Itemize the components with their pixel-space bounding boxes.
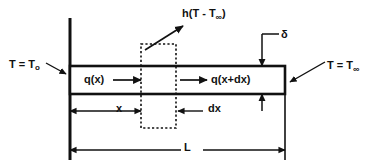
base-temperature-label: T = To bbox=[9, 59, 40, 70]
diagram-canvas bbox=[0, 0, 383, 166]
heat-flux-in-label: q(x) bbox=[84, 74, 104, 85]
convection-label-prefix: h(T - T bbox=[182, 7, 216, 19]
infinity-subscript-icon: ∞ bbox=[216, 12, 222, 22]
heat-flux-out-label: q(x+dx) bbox=[211, 74, 250, 85]
base-temperature-leader bbox=[46, 63, 66, 74]
ambient-temperature-prefix: T = T bbox=[327, 59, 353, 71]
length-label: L bbox=[184, 142, 191, 153]
ambient-temperature-leader bbox=[290, 62, 325, 82]
element-width-label: dx bbox=[208, 103, 221, 114]
convection-arrow bbox=[145, 26, 183, 50]
base-temperature-subscript: o bbox=[35, 63, 40, 72]
convection-label: h(T - T∞) bbox=[182, 8, 226, 19]
ambient-temperature-label: T = T∞ bbox=[327, 60, 359, 71]
delta-label: δ bbox=[281, 29, 288, 40]
position-label: x bbox=[116, 103, 122, 114]
convection-label-suffix: ) bbox=[222, 7, 226, 19]
base-temperature-prefix: T = T bbox=[9, 58, 35, 70]
infinity-subscript-icon: ∞ bbox=[353, 64, 359, 74]
fin-heat-transfer-diagram: h(T - T∞) δ T = To T = T∞ q(x) q(x+dx) x… bbox=[0, 0, 383, 166]
